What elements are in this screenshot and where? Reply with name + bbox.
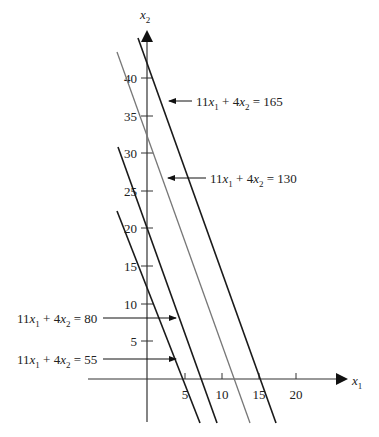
- y-axis-label: x2: [139, 7, 150, 25]
- x-axis-label: x1: [351, 373, 362, 391]
- svg-text:11x1 + 4x2 = 130: 11x1 + 4x2 = 130: [210, 171, 297, 189]
- svg-text:11x1 + 4x2 = 80: 11x1 + 4x2 = 80: [17, 311, 97, 329]
- svg-text:11x1 + 4x2 = 55: 11x1 + 4x2 = 55: [17, 352, 97, 370]
- annotation-165: 11x1 + 4x2 = 165: [169, 94, 283, 112]
- x-tick-label: 10: [216, 387, 229, 402]
- svg-text:11x1 + 4x2 = 165: 11x1 + 4x2 = 165: [196, 94, 283, 112]
- line-80: [118, 147, 217, 423]
- x-axis-arrow-icon: [336, 373, 348, 385]
- axes: x2 x1: [88, 7, 362, 422]
- y-tick-label: 10: [124, 297, 137, 312]
- y-tick-label: 30: [124, 146, 137, 161]
- x-tick-label: 20: [290, 387, 303, 402]
- y-tick-label: 35: [124, 109, 137, 124]
- annotation-80: 11x1 + 4x2 = 80: [17, 311, 176, 329]
- line-55: [117, 211, 200, 423]
- annotation-55: 11x1 + 4x2 = 55: [17, 352, 176, 370]
- y-tick-label: 5: [131, 334, 138, 349]
- y-axis-arrow-icon: [141, 30, 153, 42]
- chart: x2 x1 5 10 15 20 25 30 35 40 5 10: [0, 0, 379, 437]
- y-tick-label: 15: [124, 259, 137, 274]
